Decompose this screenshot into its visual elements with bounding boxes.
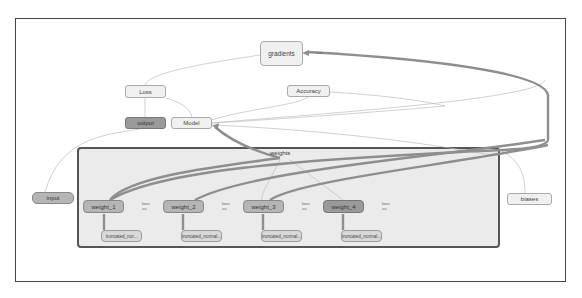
weight-1-port-bottom: ass — [142, 207, 147, 211]
truncated-normal-4-node[interactable]: truncated_normal... — [341, 230, 382, 242]
truncated-normal-1-node[interactable]: truncated_nor... — [101, 230, 142, 242]
truncated-normal-3-node[interactable]: truncated_normal... — [261, 230, 302, 242]
weight-1-port-top: bases — [142, 202, 150, 206]
weight-3-port-top: bases — [302, 202, 310, 206]
input-node[interactable]: input — [32, 192, 74, 204]
biases-node[interactable]: biases — [507, 193, 552, 205]
weight-4-port-bottom: ass — [382, 207, 387, 211]
weight-4-node[interactable]: weight_4 — [323, 200, 364, 213]
weights-group-label: weights — [270, 150, 290, 156]
weight-3-node[interactable]: weight_3 — [243, 200, 284, 213]
weight-3-port-bottom: ass — [302, 207, 307, 211]
gradients-port-label: assn — [316, 51, 322, 55]
loss-node[interactable]: Loss — [125, 85, 166, 98]
gradients-node[interactable]: gradients — [260, 41, 303, 66]
output-node[interactable]: output — [125, 117, 166, 129]
weight-4-port-top: bases — [382, 202, 390, 206]
weight-1-node[interactable]: weight_1 — [83, 200, 124, 213]
accuracy-node[interactable]: Accuracy — [287, 85, 330, 97]
weight-2-port-bottom: ass — [222, 207, 227, 211]
model-node[interactable]: Model — [171, 117, 212, 129]
weight-2-port-top: bases — [222, 202, 230, 206]
truncated-normal-2-node[interactable]: truncated_normal... — [181, 230, 222, 242]
weight-2-node[interactable]: weight_2 — [163, 200, 204, 213]
